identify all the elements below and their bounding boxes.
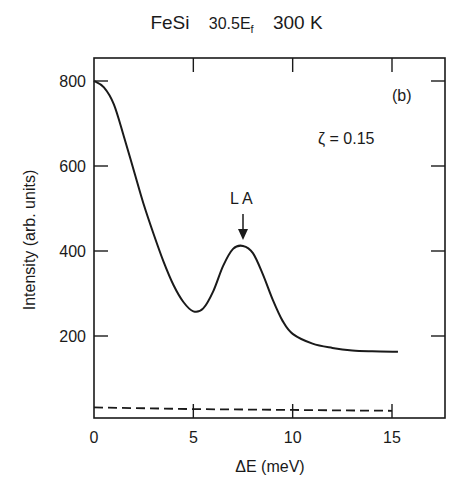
y-tick-label: 200	[59, 328, 86, 345]
plot-area: 200400600800051015	[0, 0, 473, 498]
y-axis-label: Intensity (arb. units)	[21, 170, 39, 311]
y-tick-label: 400	[59, 243, 86, 260]
la-arrow-head-icon	[238, 229, 248, 240]
dashed-background-line	[94, 407, 392, 410]
y-tick-label: 800	[59, 73, 86, 90]
zeta-annotation: ζ = 0.15	[318, 130, 374, 148]
plot-frame	[94, 58, 445, 418]
la-annotation: LA	[230, 190, 256, 208]
x-tick-label: 15	[383, 429, 401, 446]
x-axis-label: ΔE (meV)	[0, 458, 473, 476]
panel-label: (b)	[392, 87, 412, 105]
x-tick-label: 10	[284, 429, 302, 446]
solid-curve	[94, 81, 398, 352]
y-tick-label: 600	[59, 158, 86, 175]
x-tick-label: 5	[189, 429, 198, 446]
x-tick-label: 0	[90, 429, 99, 446]
